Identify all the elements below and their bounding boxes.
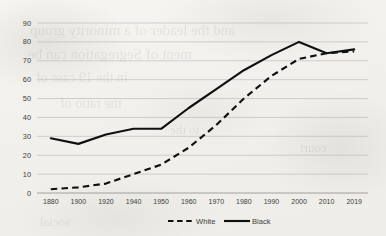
y-axis-tick: 60: [23, 75, 31, 84]
x-axis-tick: 1880: [43, 198, 59, 205]
line-chart: 0102030405060708090 18801900192019401950…: [0, 0, 386, 236]
x-axis-tick-labels: 1880190019201940195019601970198019902000…: [43, 198, 362, 205]
x-axis-tick: 2010: [319, 198, 335, 205]
legend-label-black: Black: [252, 217, 271, 226]
y-axis-tick: 80: [23, 37, 31, 46]
y-axis-tick: 50: [23, 94, 31, 103]
y-axis-tick: 70: [23, 56, 31, 65]
y-axis-tick: 10: [23, 170, 31, 179]
y-axis-tick: 0: [27, 189, 31, 198]
gridlines: [37, 23, 368, 193]
y-axis-tick: 20: [23, 151, 31, 160]
x-axis-tick: 1970: [209, 198, 225, 205]
x-axis-tick: 2019: [346, 198, 362, 205]
x-axis-tick: 1980: [236, 198, 252, 205]
series-line-black: [51, 42, 354, 144]
legend-label-white: White: [196, 217, 215, 226]
series-line-white: [51, 51, 354, 189]
x-axis-tick: 1950: [153, 198, 169, 205]
x-axis-tick: 1920: [98, 198, 114, 205]
x-axis-tick: 1960: [181, 198, 197, 205]
x-axis-tick: 1940: [126, 198, 142, 205]
chart-canvas: 0102030405060708090 18801900192019401950…: [0, 0, 386, 236]
chart-legend: White Black: [168, 217, 271, 226]
y-axis-tick-labels: 0102030405060708090: [23, 19, 31, 198]
y-axis-tick: 90: [23, 19, 31, 28]
x-axis-tick: 2000: [291, 198, 307, 205]
y-axis-tick: 40: [23, 113, 31, 122]
y-axis-tick: 30: [23, 132, 31, 141]
x-axis-tick: 1990: [264, 198, 280, 205]
x-axis-tick: 1900: [71, 198, 87, 205]
